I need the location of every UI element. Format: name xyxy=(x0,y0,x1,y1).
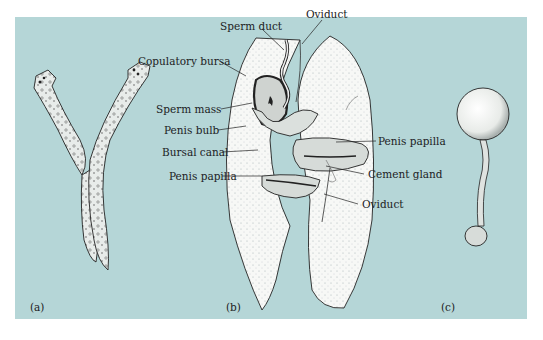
label-oviduct-top: Oviduct xyxy=(306,8,347,20)
label-penis-bulb: Penis bulb xyxy=(164,124,219,136)
panel-b-anatomy xyxy=(226,36,373,310)
panel-c-capsule xyxy=(457,88,509,246)
label-sperm-mass: Sperm mass xyxy=(156,103,221,115)
caption-b: (b) xyxy=(226,301,241,313)
label-oviduct-bottom: Oviduct xyxy=(362,198,403,210)
illustration xyxy=(0,0,543,340)
caption-c: (c) xyxy=(441,301,455,313)
label-cement-gland: Cement gland xyxy=(368,168,443,180)
label-sperm-duct: Sperm duct xyxy=(220,20,282,32)
panel-a-worms xyxy=(34,62,150,270)
label-copulatory-bursa: Copulatory bursa xyxy=(138,55,230,67)
caption-a: (a) xyxy=(30,301,44,313)
label-penis-papilla-right: Penis papilla xyxy=(378,135,446,147)
label-penis-papilla-left: Penis papilla xyxy=(169,170,237,182)
label-bursal-canal: Bursal canal xyxy=(162,146,228,158)
